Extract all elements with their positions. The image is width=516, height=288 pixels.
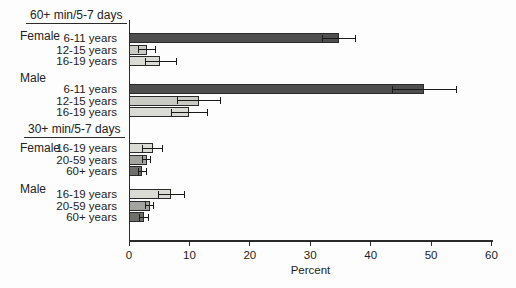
error-bar-cap-left: [158, 191, 159, 198]
x-axis-tick: [129, 241, 130, 246]
category-label: 16-19 years: [0, 142, 117, 154]
category-label: 6-11 years: [0, 83, 117, 95]
error-bar-line: [158, 194, 185, 195]
error-bar-cap-right: [184, 191, 185, 198]
error-bar-line: [142, 148, 164, 149]
error-bar-cap-right: [153, 202, 154, 209]
x-axis-tick: [491, 241, 492, 246]
category-label: 60+ years: [0, 211, 117, 223]
error-bar-cap-left: [392, 86, 393, 93]
x-axis-tick: [431, 241, 432, 246]
category-label: 12-15 years: [0, 95, 117, 107]
x-axis-tick-label: 40: [356, 249, 386, 261]
x-axis-tick: [310, 241, 311, 246]
error-bar-cap-right: [155, 46, 156, 53]
error-bar-cap-right: [355, 35, 356, 42]
error-bar-cap-right: [162, 145, 163, 152]
category-label: 20-59 years: [0, 200, 117, 212]
category-label: 12-15 years: [0, 44, 117, 56]
error-bar-line: [171, 112, 208, 113]
x-axis-tick-label: 50: [416, 249, 446, 261]
error-bar-cap-right: [176, 58, 177, 65]
error-bar-cap-left: [145, 58, 146, 65]
error-bar-cap-left: [322, 35, 323, 42]
category-label: 6-11 years: [0, 32, 117, 44]
x-axis-tick-label: 10: [174, 249, 204, 261]
error-bar-cap-left: [139, 214, 140, 221]
error-bar-line: [138, 49, 156, 50]
error-bar-line: [145, 61, 176, 62]
category-label: 20-59 years: [0, 154, 117, 166]
x-axis-tick: [189, 241, 190, 246]
error-bar-cap-left: [138, 168, 139, 175]
error-bar-cap-right: [146, 168, 147, 175]
error-bar-cap-right: [150, 156, 151, 163]
category-label: 60+ years: [0, 165, 117, 177]
error-bar-cap-left: [177, 97, 178, 104]
error-bar-cap-left: [138, 46, 139, 53]
x-axis-tick: [249, 241, 250, 246]
error-bar-cap-right: [148, 214, 149, 221]
bar: [129, 33, 339, 43]
x-axis-tick-label: 0: [114, 249, 144, 261]
x-axis-tick: [370, 241, 371, 246]
error-bar-line: [322, 38, 356, 39]
error-bar-cap-right: [207, 109, 208, 116]
error-bar-line: [177, 100, 221, 101]
error-bar-cap-right: [220, 97, 221, 104]
error-bar-cap-right: [456, 86, 457, 93]
error-bar-cap-left: [145, 202, 146, 209]
category-label: 16-19 years: [0, 188, 117, 200]
group-heading-30min: 30+ min/5-7 days: [24, 122, 125, 138]
group-heading-60min: 60+ min/5-7 days: [26, 8, 127, 24]
x-axis-title: Percent: [129, 264, 492, 276]
error-bar-cap-left: [142, 145, 143, 152]
error-bar-cap-left: [142, 156, 143, 163]
error-bar-line: [392, 89, 457, 90]
x-axis-tick-label: 30: [295, 249, 325, 261]
x-axis-tick-label: 60: [477, 249, 507, 261]
bar: [129, 84, 424, 94]
category-label: 16-19 years: [0, 106, 117, 118]
x-axis-tick-label: 20: [235, 249, 265, 261]
category-label: 16-19 years: [0, 55, 117, 67]
error-bar-cap-left: [171, 109, 172, 116]
activity-bar-chart: 60+ min/5-7 days 30+ min/5-7 days Female…: [0, 0, 516, 288]
